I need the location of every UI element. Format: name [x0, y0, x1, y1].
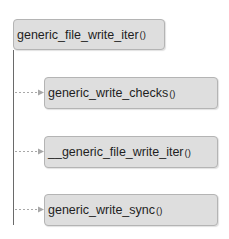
root-function-name: generic_file_write_iter: [17, 28, 139, 42]
call-arrow-icon: [15, 148, 44, 155]
child-function-parens: (): [185, 147, 191, 158]
child-function-name: __generic_file_write_iter: [48, 145, 184, 159]
child-function-name: generic_write_sync: [48, 203, 155, 217]
child-function-node[interactable]: generic_write_sync(): [44, 194, 218, 226]
child-function-name: generic_write_checks: [48, 86, 168, 100]
child-function-node[interactable]: generic_write_checks(): [44, 77, 218, 109]
child-function-parens: (): [156, 205, 162, 216]
child-function-node[interactable]: __generic_file_write_iter(): [44, 136, 218, 168]
call-arrow-icon: [15, 206, 44, 213]
call-tree-trunk-line: [13, 50, 14, 225]
root-function-parens: (): [140, 29, 146, 40]
call-arrow-icon: [15, 89, 44, 96]
child-function-parens: (): [169, 88, 175, 99]
root-function-node[interactable]: generic_file_write_iter(): [13, 19, 165, 50]
